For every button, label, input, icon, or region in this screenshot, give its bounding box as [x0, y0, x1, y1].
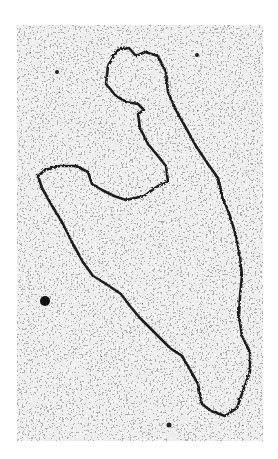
dark-particle	[40, 296, 50, 306]
micrograph-image	[17, 25, 263, 441]
